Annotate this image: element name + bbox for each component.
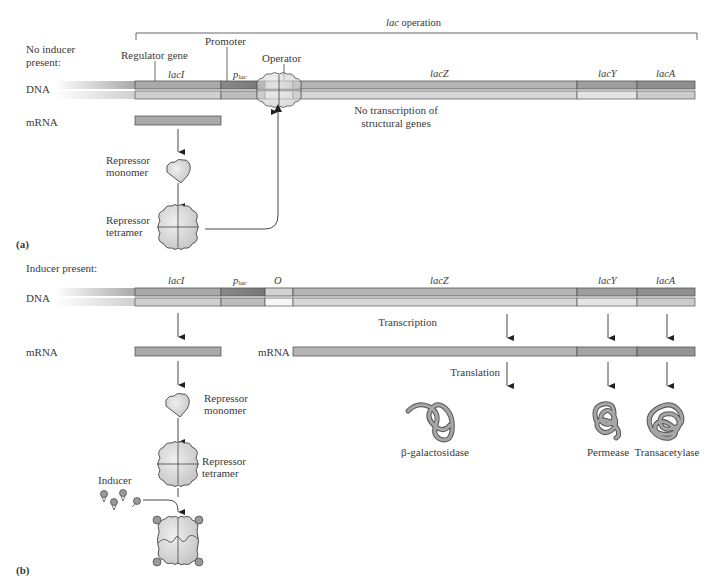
transacetylase-icon xyxy=(649,405,682,439)
condition-label-line1: No inducer xyxy=(26,43,76,55)
segment-laca-top xyxy=(637,81,695,89)
protein-label-transacetylase: Transacetylase xyxy=(635,446,700,458)
inducer-molecules-icon xyxy=(101,490,141,511)
panel-b: Inducer present: lacI plac O lacZ lacY l… xyxy=(16,262,700,577)
dna-strand-a xyxy=(55,81,695,99)
protein-label-permease: Permease xyxy=(587,446,629,458)
segment-lacy-top xyxy=(577,81,637,89)
repressor-monomer-icon xyxy=(166,393,189,417)
operon-label: lac operation xyxy=(386,17,442,28)
no-transcription-line1: No transcription of xyxy=(354,104,438,116)
repressor-monomer-label-2: monomer xyxy=(204,404,246,416)
condition-label-line2: present: xyxy=(26,56,61,68)
gene-lacy: lacY xyxy=(598,275,618,286)
transcription-label: Transcription xyxy=(378,316,437,328)
polycistronic-mrna xyxy=(293,347,695,356)
no-transcription-line2: structural genes xyxy=(361,117,430,129)
dna-strand-b xyxy=(55,288,695,306)
gene-plac: plac xyxy=(232,275,248,287)
protein-label-beta-galactosidase: β-galactosidase xyxy=(401,446,469,458)
repressor-bound-operator xyxy=(257,73,302,108)
dna-label: DNA xyxy=(26,83,50,95)
gene-lacy: lacY xyxy=(598,68,618,79)
mrna-laci xyxy=(135,347,221,356)
mrna-laci xyxy=(135,116,221,125)
dna-label: DNA xyxy=(26,292,50,304)
gene-lacz: lacZ xyxy=(430,68,449,79)
repressor-tetramer-icon xyxy=(157,442,199,487)
gene-laci: lacI xyxy=(168,275,185,286)
mrna-label: mRNA xyxy=(26,346,58,358)
binding-arrow xyxy=(205,112,278,229)
repressor-tetramer-label-1: Repressor xyxy=(106,214,150,226)
repressor-monomer-icon xyxy=(167,159,190,183)
repressor-tetramer-label-2: tetramer xyxy=(202,467,239,479)
panel-a-label: (a) xyxy=(16,238,29,251)
gene-operator: O xyxy=(274,275,282,286)
gene-laca: lacA xyxy=(656,68,676,79)
condition-label: Inducer present: xyxy=(26,262,97,274)
repressor-monomer-label-2: monomer xyxy=(106,166,148,178)
repressor-monomer-label-1: Repressor xyxy=(204,392,248,404)
gene-laca: lacA xyxy=(656,275,676,286)
regulator-gene-label: Regulator gene xyxy=(121,49,188,61)
promoter-label: Promoter xyxy=(205,35,246,47)
repressor-tetramer-icon xyxy=(157,205,199,250)
mrna-label: mRNA xyxy=(26,116,58,128)
repressor-tetramer-label-2: tetramer xyxy=(106,226,143,238)
inactive-repressor-icon xyxy=(153,516,203,566)
repressor-monomer-label-1: Repressor xyxy=(106,154,150,166)
repressor-tetramer-label-1: Repressor xyxy=(202,455,246,467)
beta-galactosidase-icon xyxy=(408,405,452,440)
mrna-label-2: mRNA xyxy=(258,346,290,358)
gene-plac: plac xyxy=(232,69,248,81)
panel-a: lac operation No inducer present: Regula… xyxy=(16,17,697,251)
segment-lacz-top xyxy=(293,81,577,89)
segment-laci-top xyxy=(135,81,221,89)
translation-label: Translation xyxy=(450,366,500,378)
operator-label: Operator xyxy=(262,52,301,64)
gene-laci: lacI xyxy=(168,69,185,80)
inducer-label: Inducer xyxy=(98,474,132,486)
lac-operon-diagram: lac operation No inducer present: Regula… xyxy=(0,0,717,586)
gene-lacz: lacZ xyxy=(430,275,449,286)
panel-b-label: (b) xyxy=(16,564,30,577)
permease-icon xyxy=(595,404,619,438)
